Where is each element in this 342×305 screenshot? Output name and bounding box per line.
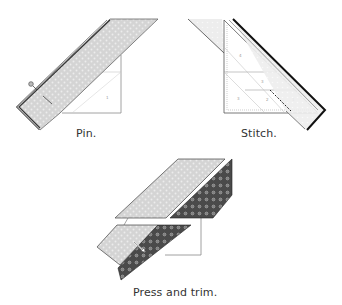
press-trim-step-figure <box>97 159 232 280</box>
section-number: 1 <box>106 95 109 100</box>
caption-stitch: Stitch. <box>241 127 277 140</box>
caption-pin: Pin. <box>76 127 96 140</box>
caption-press-and-trim: Press and trim. <box>133 286 217 299</box>
pin-step-figure: 1 <box>16 19 158 130</box>
stitch-step-figure: 4 3 3 2 1 <box>188 19 325 130</box>
quilting-diagram: 1 4 3 3 2 1 <box>0 0 342 305</box>
